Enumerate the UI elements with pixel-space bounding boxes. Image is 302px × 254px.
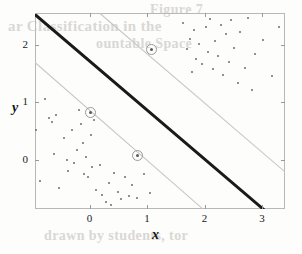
data-point (209, 18, 211, 20)
data-point (90, 134, 92, 136)
data-point (230, 19, 232, 21)
data-point (131, 184, 133, 186)
data-point (113, 172, 115, 174)
x-tick-0 (90, 13, 91, 17)
data-point (58, 187, 60, 189)
y-tick-2 (35, 45, 39, 46)
x-tick-2 (205, 13, 206, 17)
data-point (55, 114, 57, 116)
data-point (73, 162, 75, 164)
data-point (233, 47, 235, 49)
support-vector-marker (85, 107, 96, 118)
data-point (44, 98, 46, 100)
y-tick-1 (281, 102, 285, 103)
data-point (101, 194, 103, 196)
data-point (207, 51, 209, 53)
data-point (193, 29, 195, 31)
data-point (71, 129, 73, 131)
x-tick-3 (262, 13, 263, 17)
data-point (195, 58, 197, 60)
data-point (278, 26, 280, 28)
x-tick-label-3: 3 (252, 212, 272, 224)
data-point (244, 67, 246, 69)
data-point (39, 180, 41, 182)
data-point (51, 121, 53, 123)
data-point (120, 198, 122, 200)
data-point (124, 176, 126, 178)
data-point (228, 61, 230, 63)
data-point (237, 82, 239, 84)
data-point (186, 48, 188, 50)
plot-area (35, 13, 285, 209)
data-point (35, 129, 37, 131)
x-axis-title: x (152, 227, 159, 243)
data-point (254, 53, 256, 55)
support-vector-marker (146, 44, 157, 55)
data-point (214, 40, 216, 42)
y-tick-0 (35, 160, 39, 161)
data-point (91, 166, 93, 168)
data-point (80, 123, 82, 125)
y-axis-title: y (12, 100, 18, 116)
data-point (247, 17, 249, 19)
y-tick-2 (281, 45, 285, 46)
data-point (239, 31, 241, 33)
data-point (93, 119, 95, 121)
data-point (87, 176, 89, 178)
data-point (117, 191, 119, 193)
y-tick-label-2: 2 (14, 38, 28, 50)
data-point (201, 63, 203, 65)
data-point (262, 39, 264, 41)
x-tick-label-0: 0 (80, 212, 100, 224)
scatter-plot-figure: Figure 7 ar Classification in the ountab… (0, 0, 302, 254)
data-point (189, 38, 191, 40)
x-tick-label-2: 2 (195, 212, 215, 224)
data-point (220, 24, 222, 26)
x-tick-2 (205, 205, 206, 209)
data-point (222, 74, 224, 76)
data-point (48, 117, 50, 119)
data-point (136, 197, 138, 199)
data-point (198, 43, 200, 45)
data-point (205, 26, 207, 28)
data-point (82, 142, 84, 144)
data-point (78, 109, 80, 111)
data-point (212, 68, 214, 70)
x-tick-0 (90, 205, 91, 209)
data-point (110, 204, 112, 206)
decision-boundary (35, 13, 266, 209)
data-point (191, 71, 193, 73)
data-point (63, 137, 65, 139)
support-vector-marker (132, 150, 143, 161)
y-tick-1 (35, 102, 39, 103)
x-tick-3 (262, 205, 263, 209)
data-point (95, 189, 97, 191)
data-point (85, 156, 87, 158)
bleed-text-line-4: drawn by students, tor (44, 228, 188, 244)
data-point (128, 195, 130, 197)
data-point (149, 192, 151, 194)
data-point (143, 173, 145, 175)
x-tick-label-1: 1 (137, 212, 157, 224)
data-point (76, 149, 78, 151)
x-tick-1 (147, 13, 148, 17)
data-point (99, 164, 101, 166)
data-point (225, 33, 227, 35)
data-point (66, 159, 68, 161)
data-point (251, 89, 253, 91)
x-tick-1 (147, 205, 148, 209)
data-point (217, 55, 219, 57)
y-tick-0 (281, 160, 285, 161)
data-point (67, 170, 69, 172)
y-tick-label-0: 0 (14, 153, 28, 165)
data-point (182, 22, 184, 24)
data-point (53, 153, 55, 155)
data-point (83, 173, 85, 175)
data-point (271, 75, 273, 77)
data-point (105, 201, 107, 203)
data-point (108, 182, 110, 184)
